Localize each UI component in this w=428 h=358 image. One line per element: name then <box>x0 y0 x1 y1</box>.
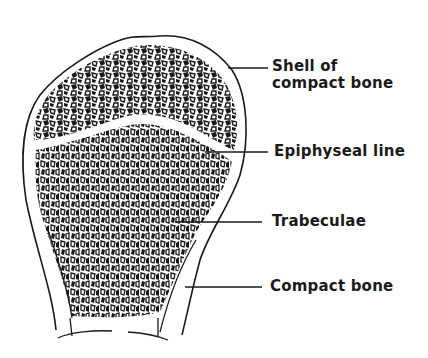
label-epiphyseal-line: Epiphyseal line <box>274 143 405 160</box>
label-trabeculae: Trabeculae <box>272 213 366 230</box>
label-shell-line1: Shell of <box>272 58 393 75</box>
label-compact-bone: Compact bone <box>270 278 393 295</box>
bone-section-diagram <box>0 0 428 358</box>
label-shell-of-compact-bone: Shell of compact bone <box>272 58 393 92</box>
label-shell-line2: compact bone <box>272 75 393 92</box>
